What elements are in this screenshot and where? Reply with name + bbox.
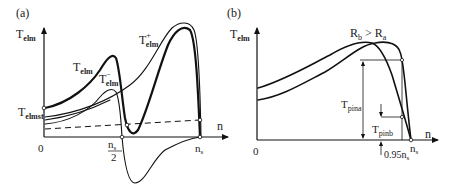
origin-label: 0 (253, 145, 259, 157)
pinb-arrow (379, 112, 383, 117)
resistance-relation-label: Rb > Ra (350, 26, 387, 42)
pina-marker (400, 58, 403, 61)
x-axis-label: n (425, 127, 431, 141)
total-curve-label: Telm (73, 60, 93, 76)
sync-marker (198, 135, 202, 139)
x-axis-label: n (217, 119, 223, 133)
intersect-marker (125, 123, 129, 127)
curve-ra (258, 42, 411, 140)
total-torque-curve (45, 28, 200, 137)
pina-arrow-up (361, 61, 365, 66)
panel-b: (b) Telm n 0 Rb > Ra (227, 6, 438, 162)
torque-speed-diagram: (a) Telm n 0 Telmst Telm (0, 0, 454, 191)
half-sync-numerator: ns (108, 138, 117, 152)
slip-arrow (379, 141, 383, 146)
load-line-dashed (45, 120, 200, 129)
pina-arrow-down (361, 134, 365, 139)
slip-label: 0.95ns (384, 149, 410, 162)
sync-label: ns (195, 142, 204, 156)
start-point-marker (42, 106, 46, 110)
panel-a: (a) Telm n 0 Telmst Telm (16, 6, 228, 183)
pina-label: Tpina (341, 98, 362, 113)
sync-label: ns (410, 142, 419, 156)
pinb-marker (400, 115, 403, 118)
y-axis-label: Telm (230, 27, 250, 43)
negative-curve-label: T−elm (99, 70, 119, 88)
half-sync-marker (120, 135, 124, 139)
positive-curve-label: T+elm (139, 31, 159, 49)
positive-torque-curve (45, 23, 201, 137)
panel-a-tag: (a) (16, 6, 29, 20)
start-torque-label: Telmst (18, 105, 44, 121)
y-axis-label: Telm (16, 27, 36, 43)
curve-rb (258, 42, 411, 140)
panel-b-tag: (b) (227, 6, 241, 20)
load-marker (198, 118, 202, 122)
half-sync-denominator: 2 (111, 151, 117, 163)
origin-label: 0 (38, 142, 44, 154)
pinb-label: Tpinb (372, 123, 393, 138)
